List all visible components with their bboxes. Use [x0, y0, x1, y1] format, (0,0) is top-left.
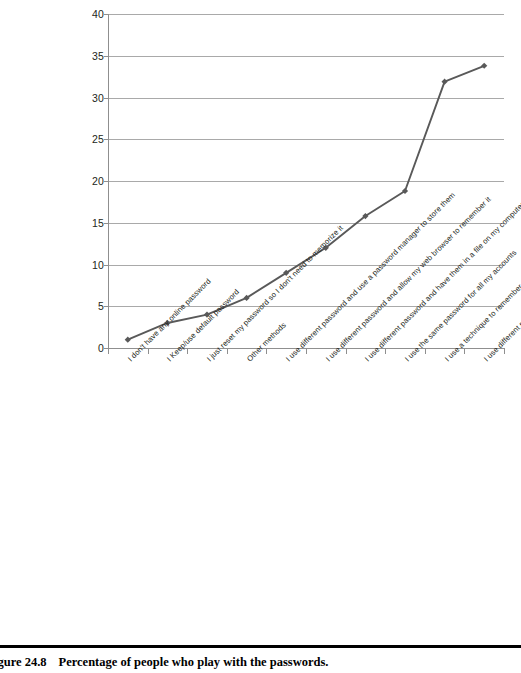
y-tick-mark	[104, 223, 108, 224]
y-tick-label: 15	[78, 218, 104, 228]
data-point-marker	[442, 79, 448, 85]
y-tick-label: 20	[78, 176, 104, 186]
data-point-marker	[164, 320, 170, 326]
x-tick-mark	[108, 349, 109, 354]
data-point-marker	[481, 63, 487, 69]
x-tick-mark	[425, 349, 426, 354]
x-tick-mark	[266, 349, 267, 354]
y-tick-mark	[104, 306, 108, 307]
y-tick-mark	[104, 98, 108, 99]
figure-container: 0510152025303540 I don't have any online…	[0, 0, 521, 673]
x-tick-mark	[385, 349, 386, 354]
figure-caption-text: Percentage of people who play with the p…	[59, 655, 329, 669]
data-point-marker	[125, 337, 131, 343]
x-tick-mark	[148, 349, 149, 354]
y-tick-label: 35	[78, 51, 104, 61]
x-tick-mark	[504, 349, 505, 354]
x-tick-mark	[227, 349, 228, 354]
data-series	[108, 14, 505, 349]
caption-rule	[0, 645, 521, 648]
figure-number: igure 24.8	[0, 655, 47, 669]
x-tick-mark	[187, 349, 188, 354]
y-axis-tick-labels: 0510152025303540	[74, 0, 104, 360]
data-point-marker	[204, 312, 210, 318]
y-tick-mark	[104, 139, 108, 140]
x-tick-mark	[464, 349, 465, 354]
x-tick-mark	[346, 349, 347, 354]
y-tick-label: 10	[78, 260, 104, 270]
y-tick-mark	[104, 56, 108, 57]
y-tick-label: 30	[78, 93, 104, 103]
y-tick-label: 40	[78, 9, 104, 19]
y-tick-label: 0	[78, 343, 104, 353]
y-tick-mark	[104, 14, 108, 15]
y-tick-mark	[104, 265, 108, 266]
series-line	[128, 66, 484, 340]
y-tick-label: 25	[78, 134, 104, 144]
y-tick-label: 5	[78, 301, 104, 311]
x-tick-mark	[306, 349, 307, 354]
y-tick-mark	[104, 181, 108, 182]
figure-caption: igure 24.8Percentage of people who play …	[0, 655, 521, 670]
